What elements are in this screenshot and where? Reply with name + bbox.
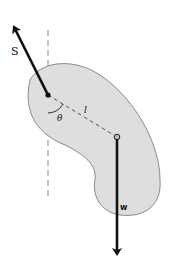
angle-label: θ — [57, 113, 63, 123]
length-label: l — [84, 105, 87, 115]
center-of-mass-marker — [114, 134, 120, 140]
physical-pendulum-diagram: S l θ w — [0, 0, 171, 263]
pivot-point — [45, 92, 50, 97]
weight-label: w — [120, 203, 128, 212]
support-force-label: S — [11, 45, 19, 58]
